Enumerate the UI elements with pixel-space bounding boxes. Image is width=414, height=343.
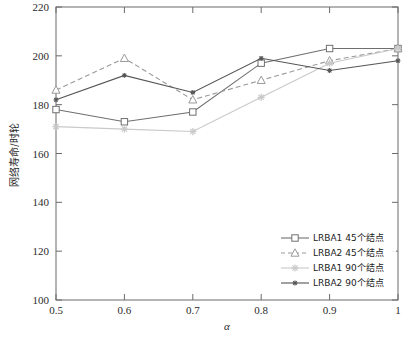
- data-point-marker: [120, 54, 128, 61]
- data-point-marker: [258, 60, 264, 66]
- y-axis-title: 网络寿命/时轮: [8, 123, 20, 186]
- y-tick-label: 220: [33, 1, 50, 13]
- data-point-marker: [190, 90, 195, 95]
- x-tick-label: 1: [395, 304, 401, 316]
- data-series-layer: [52, 44, 402, 135]
- data-point-marker: [121, 119, 127, 125]
- data-point-marker: [189, 128, 196, 135]
- x-tick-label: 0.9: [323, 304, 337, 316]
- x-tick-label: 0.8: [254, 304, 268, 316]
- line-chart: 100120140160180200220 0.50.60.70.80.91 α…: [0, 0, 414, 343]
- data-point-marker: [258, 94, 265, 101]
- chart-canvas: 100120140160180200220 0.50.60.70.80.91 α…: [0, 0, 414, 343]
- data-series: [53, 45, 401, 125]
- y-tick-label: 120: [33, 245, 50, 257]
- data-point-marker: [293, 281, 298, 286]
- data-point-marker: [326, 60, 333, 67]
- y-tick-label: 200: [33, 50, 50, 62]
- chart-legend: LRBA1 45个结点LRBA2 45个结点LRBA1 90个结点LRBA2 9…: [276, 228, 396, 290]
- x-axis-title: α: [224, 320, 230, 332]
- legend-label: LRBA2 90个结点: [313, 277, 384, 288]
- data-point-marker: [52, 86, 60, 93]
- data-point-marker: [291, 264, 298, 271]
- series-line: [56, 49, 398, 100]
- data-point-marker: [257, 76, 265, 83]
- series-line: [56, 58, 398, 100]
- data-point-marker: [190, 109, 196, 115]
- legend-label: LRBA2 45个结点: [313, 247, 384, 258]
- data-series: [54, 56, 401, 102]
- x-tick-label: 0.6: [118, 304, 132, 316]
- data-series: [52, 44, 402, 103]
- y-tick-label: 140: [33, 196, 50, 208]
- data-point-marker: [394, 45, 401, 52]
- data-point-marker: [53, 106, 59, 112]
- data-point-marker: [121, 125, 128, 132]
- data-point-marker: [327, 68, 332, 73]
- data-point-marker: [326, 45, 332, 51]
- data-series: [52, 45, 401, 135]
- data-point-marker: [396, 58, 401, 63]
- y-tick-label: 180: [33, 99, 50, 111]
- data-point-marker: [259, 56, 264, 61]
- y-tick-label: 160: [33, 148, 50, 160]
- data-point-marker: [54, 97, 59, 102]
- legend-label: LRBA1 90个结点: [313, 262, 384, 273]
- data-point-marker: [292, 235, 298, 241]
- y-tick-label: 100: [33, 294, 50, 306]
- legend-label: LRBA1 45个结点: [313, 232, 384, 243]
- x-tick-label: 0.5: [49, 304, 63, 316]
- data-point-marker: [189, 96, 197, 103]
- data-point-marker: [122, 73, 127, 78]
- data-point-marker: [52, 123, 59, 130]
- x-tick-label: 0.7: [186, 304, 200, 316]
